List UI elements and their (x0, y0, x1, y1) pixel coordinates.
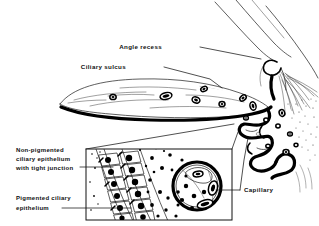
label-non-pigmented-line3: with tight junction (15, 165, 73, 171)
label-pigmented-line2: epithelium (16, 205, 49, 211)
ciliary-processes-folds (239, 109, 298, 178)
label-ciliary-sulcus: Ciliary sulcus (81, 63, 126, 70)
sclera-cornea-outline (215, 0, 318, 78)
figure-canvas: Angle recess Ciliary sulcus Non-pigmente… (0, 0, 319, 226)
label-angle-recess: Angle recess (119, 43, 162, 50)
label-non-pigmented-line1: Non-pigmented (16, 147, 64, 153)
iris-ciliary-body-mass (60, 79, 271, 120)
label-capillary: Capillary (244, 186, 273, 193)
anatomical-figure: Angle recess Ciliary sulcus Non-pigmente… (0, 0, 319, 226)
leader-angle-recess (200, 47, 261, 59)
angle-recess-notch (260, 60, 286, 99)
label-pigmented-line1: Pigmented ciliary (16, 195, 71, 201)
inset-connector-lines (86, 124, 238, 149)
label-non-pigmented-line2: ciliary epithelium (16, 156, 70, 162)
epithelium-detail-inset (86, 147, 232, 221)
leader-capillary-up (240, 138, 248, 190)
